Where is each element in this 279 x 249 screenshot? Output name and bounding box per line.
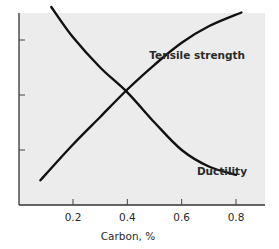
chart: 0.20.40.60.8 Tensile strength Ductility …: [0, 0, 279, 249]
x-axis-label: Carbon, %: [101, 230, 156, 242]
x-tick-label: 0.8: [228, 211, 245, 223]
x-tick-label: 0.4: [119, 211, 136, 223]
x-tick-label: 0.6: [173, 211, 190, 223]
x-tick-label: 0.2: [65, 211, 82, 223]
tensile-strength-label: Tensile strength: [149, 49, 245, 61]
ductility-label: Ductility: [197, 165, 247, 177]
chart-canvas: 0.20.40.60.8 Tensile strength Ductility …: [0, 0, 279, 249]
